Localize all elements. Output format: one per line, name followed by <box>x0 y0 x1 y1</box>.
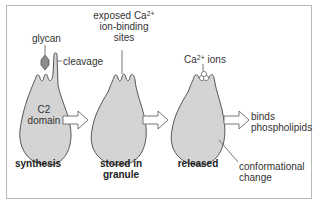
exposed-line2: ion-binding <box>92 21 156 32</box>
glycan-icon <box>41 55 49 70</box>
stage-synthesis-line1: synthesis <box>8 158 68 169</box>
exposed-sites-label: exposed Ca2+ ion-binding sites <box>92 10 156 43</box>
c2-label-line1: C2 <box>27 104 61 115</box>
binds-line2: phospholipids <box>251 122 312 133</box>
ca-ion <box>201 71 206 76</box>
exposed-line1: exposed Ca2+ <box>92 10 156 21</box>
ca-ions-text: Ca <box>184 54 197 65</box>
c2-label-line2: domain <box>27 115 61 126</box>
glycan-label: glycan <box>32 33 61 44</box>
binds-phospholipids-label: binds phospholipids <box>251 111 312 133</box>
conformational-change-label: conformational change <box>239 161 305 183</box>
stage-released-line1: released <box>168 158 228 169</box>
stage-stored-line2: granule <box>90 169 152 180</box>
exposed-line3: sites <box>92 32 156 43</box>
binds-line1: binds <box>251 111 312 122</box>
cell-stored <box>91 74 146 165</box>
stage-label-stored: stored in granule <box>90 158 152 180</box>
stage-label-released: released <box>168 158 228 169</box>
arrow-stored-to-released <box>143 111 168 129</box>
arrow-released-to-binds <box>224 111 249 129</box>
conf-line2: change <box>239 172 305 183</box>
stage-label-synthesis: synthesis <box>8 158 68 169</box>
cleavage-label: cleavage <box>63 56 103 67</box>
exposed-sup: 2+ <box>147 10 155 17</box>
c2-domain-label: C2 domain <box>27 104 61 126</box>
ca-ions-label: Ca2+ ions <box>184 54 226 65</box>
ca-ions-suffix: ions <box>205 54 226 65</box>
cell-released <box>171 75 225 165</box>
conf-line1: conformational <box>239 161 305 172</box>
exposed-text: exposed Ca <box>93 10 146 21</box>
stage-stored-line1: stored in <box>90 158 152 169</box>
ca-ions-sup: 2+ <box>197 54 205 61</box>
